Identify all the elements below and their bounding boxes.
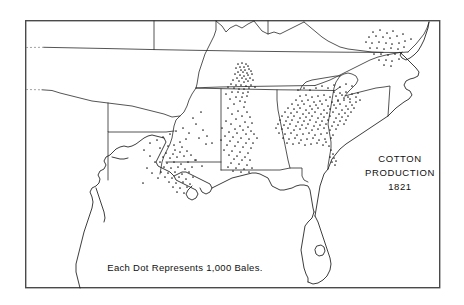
production-dot [313, 125, 315, 127]
production-dot [231, 91, 233, 93]
production-dot [378, 41, 380, 43]
production-dot [369, 47, 371, 49]
production-dot [243, 88, 245, 90]
production-dot [293, 129, 295, 131]
production-dot [246, 72, 248, 74]
production-dot [304, 144, 306, 146]
production-dot [237, 91, 239, 93]
production-dot [179, 151, 181, 153]
map-title-year: 1821 [358, 180, 442, 194]
production-dot [330, 149, 332, 151]
production-dot [312, 137, 314, 139]
production-dot [365, 41, 367, 43]
production-dot [195, 159, 197, 161]
production-dot [355, 96, 357, 98]
production-dot [329, 129, 331, 131]
production-dot [181, 146, 183, 148]
production-dot [220, 139, 222, 141]
gulf-coast-panhandle [212, 173, 314, 212]
production-dot [343, 99, 345, 101]
production-dot [301, 100, 303, 102]
production-dot [387, 54, 389, 56]
production-dot [390, 65, 392, 67]
production-dot [242, 71, 244, 73]
production-dot [176, 156, 178, 158]
production-dot [246, 95, 248, 97]
production-dot [311, 96, 313, 98]
production-dot [294, 137, 296, 139]
production-dot [305, 109, 307, 111]
production-dot [221, 127, 223, 129]
texas-barrier-islands [96, 188, 105, 222]
production-dot [339, 120, 341, 122]
production-dot [142, 182, 144, 184]
production-dot [345, 91, 347, 93]
production-dot [227, 107, 229, 109]
production-dot [242, 92, 244, 94]
production-dot [311, 108, 313, 110]
production-dot [326, 132, 328, 134]
production-dot [238, 163, 240, 165]
production-dot [309, 89, 311, 91]
production-dot [282, 137, 284, 139]
production-dot [325, 123, 327, 125]
production-dot [279, 119, 281, 121]
production-dot [241, 96, 243, 98]
production-dot [250, 84, 252, 86]
production-dot [317, 95, 319, 97]
production-dot [386, 32, 388, 34]
production-dot [149, 142, 151, 144]
production-dot [290, 112, 292, 114]
production-dot [249, 77, 251, 79]
production-dot [174, 171, 176, 173]
production-dot [398, 58, 400, 60]
production-dot [323, 94, 325, 96]
production-dot [235, 67, 237, 69]
production-dot [192, 176, 194, 178]
production-dot [241, 115, 243, 117]
production-dot [400, 52, 402, 54]
production-dot [303, 87, 305, 89]
production-dot [334, 164, 336, 166]
arkansas-louisiana-boundary [108, 103, 174, 132]
production-dot [211, 142, 213, 144]
production-dot [332, 153, 334, 155]
production-dot [195, 123, 197, 125]
production-dot [385, 59, 387, 61]
production-dot [245, 133, 247, 135]
production-dot [299, 107, 301, 109]
production-dot [247, 91, 249, 93]
production-dot [252, 79, 254, 81]
cotton-production-figure: COTTON PRODUCTION 1821 Each Dot Represen… [0, 0, 464, 305]
production-dot [205, 143, 207, 145]
production-dot [288, 138, 290, 140]
production-dot [166, 162, 168, 164]
production-dot [156, 139, 158, 141]
production-dot [314, 134, 316, 136]
mississippi-west-boundary [160, 88, 196, 174]
chesapeake-coast [408, 22, 429, 52]
production-dot [345, 105, 347, 107]
production-dot [297, 89, 299, 91]
production-dot [186, 150, 188, 152]
ohio-river-east [254, 21, 304, 34]
production-dot [185, 138, 187, 140]
production-dot [206, 135, 208, 137]
production-dot [179, 187, 181, 189]
production-dot [229, 98, 231, 100]
production-dot [331, 101, 333, 103]
production-dot [331, 161, 333, 163]
production-dot [248, 138, 250, 140]
production-dot [175, 130, 177, 132]
production-dot [168, 181, 170, 183]
production-dot [383, 64, 385, 66]
production-dot [278, 132, 280, 134]
production-dot [254, 86, 256, 88]
louisiana-delta-coast [156, 138, 198, 200]
production-dot [329, 108, 331, 110]
production-dot [317, 128, 319, 130]
production-dot [284, 111, 286, 113]
production-dot [359, 99, 361, 101]
production-dot [351, 104, 353, 106]
production-dot [239, 66, 241, 68]
